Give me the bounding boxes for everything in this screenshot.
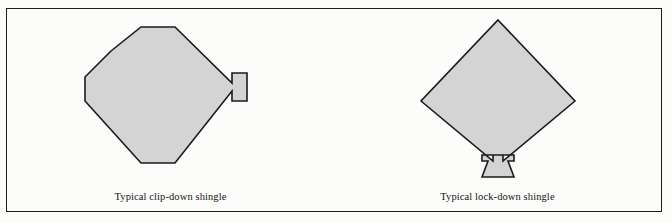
caption-clip-down: Typical clip-down shingle <box>7 191 334 202</box>
figure-page: Typical clip-down shingle Typical lock-d… <box>0 0 672 223</box>
lock-down-shingle-shape <box>421 20 575 177</box>
shingle-panel-clip-down: Typical clip-down shingle <box>7 9 334 211</box>
figure-frame: Typical clip-down shingle Typical lock-d… <box>6 8 662 212</box>
caption-lock-down: Typical lock-down shingle <box>334 191 661 202</box>
lock-down-shingle-diagram <box>398 15 598 191</box>
clip-down-shingle-diagram <box>71 21 271 181</box>
shingle-panel-lock-down: Typical lock-down shingle <box>334 9 661 211</box>
clip-down-shingle-shape <box>85 27 247 163</box>
